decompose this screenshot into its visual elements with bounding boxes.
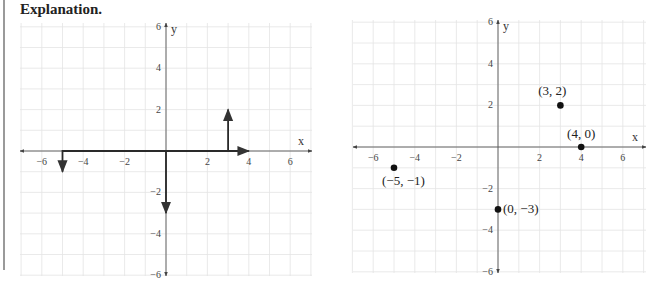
y-tick-label: −6 bbox=[482, 266, 493, 277]
data-point bbox=[578, 144, 585, 151]
point-label: (−5, −1) bbox=[382, 173, 425, 188]
y-tick-label: −2 bbox=[150, 186, 161, 197]
x-tick-label: 6 bbox=[288, 156, 293, 167]
x-axis-label: x bbox=[298, 134, 304, 148]
y-tick-label: 4 bbox=[488, 58, 493, 69]
coordinate-plots: −6−4−2246642−2−4−6xy−6−4−2246642−2−4−6xy… bbox=[0, 0, 656, 288]
y-tick-label: −2 bbox=[482, 183, 493, 194]
y-tick-label: 2 bbox=[156, 104, 161, 115]
x-tick-label: 6 bbox=[620, 152, 625, 163]
x-tick-label: 4 bbox=[246, 156, 251, 167]
point-label: (4, 0) bbox=[567, 126, 595, 141]
data-point bbox=[495, 206, 502, 213]
x-tick-label: 2 bbox=[537, 152, 542, 163]
x-tick-label: −2 bbox=[451, 152, 462, 163]
y-axis-label: y bbox=[171, 22, 177, 36]
y-axis-label: y bbox=[503, 19, 509, 33]
x-axis-label: x bbox=[632, 130, 638, 144]
x-tick-label: 4 bbox=[579, 152, 584, 163]
x-tick-label: 2 bbox=[205, 156, 210, 167]
y-tick-label: 6 bbox=[488, 16, 493, 27]
y-tick-label: 6 bbox=[156, 21, 161, 32]
point-plot: −6−4−2246642−2−4−6xy(3, 2)(4, 0)(−5, −1)… bbox=[352, 16, 646, 277]
point-label: (0, −3) bbox=[503, 201, 539, 216]
data-point bbox=[557, 102, 564, 109]
data-point bbox=[391, 165, 398, 172]
x-tick-label: −4 bbox=[78, 156, 89, 167]
x-tick-label: −2 bbox=[119, 156, 130, 167]
point-label: (3, 2) bbox=[538, 83, 566, 98]
x-tick-label: −6 bbox=[36, 156, 47, 167]
y-tick-label: 4 bbox=[156, 62, 161, 73]
y-tick-label: −4 bbox=[150, 228, 161, 239]
vector-plot: −6−4−2246642−2−4−6xy bbox=[20, 21, 312, 280]
x-tick-label: −4 bbox=[409, 152, 420, 163]
y-tick-label: 2 bbox=[488, 99, 493, 110]
x-tick-label: −6 bbox=[368, 152, 379, 163]
y-tick-label: −4 bbox=[482, 224, 493, 235]
y-tick-label: −6 bbox=[150, 269, 161, 280]
